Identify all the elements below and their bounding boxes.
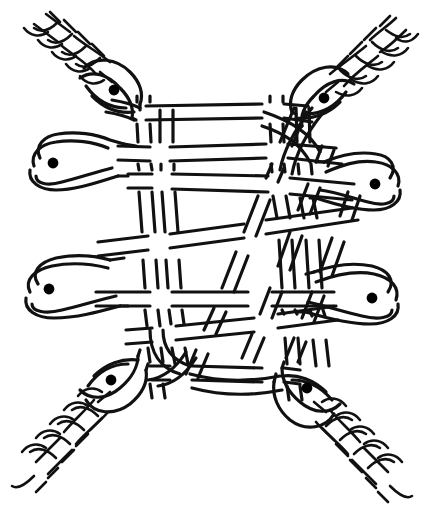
serpent-eye — [302, 383, 313, 394]
serpent-eye — [106, 375, 117, 386]
serpent-eye — [44, 284, 55, 295]
artwork-canvas: Interlaced Serpent Knotwork — [0, 0, 428, 529]
serpent-eye — [319, 93, 330, 104]
serpent-eye — [48, 158, 59, 169]
serpent-eye — [109, 85, 120, 96]
serpent-eye — [370, 179, 381, 190]
serpent-eye — [367, 293, 378, 304]
serpent-knotwork-illustration — [0, 0, 428, 529]
